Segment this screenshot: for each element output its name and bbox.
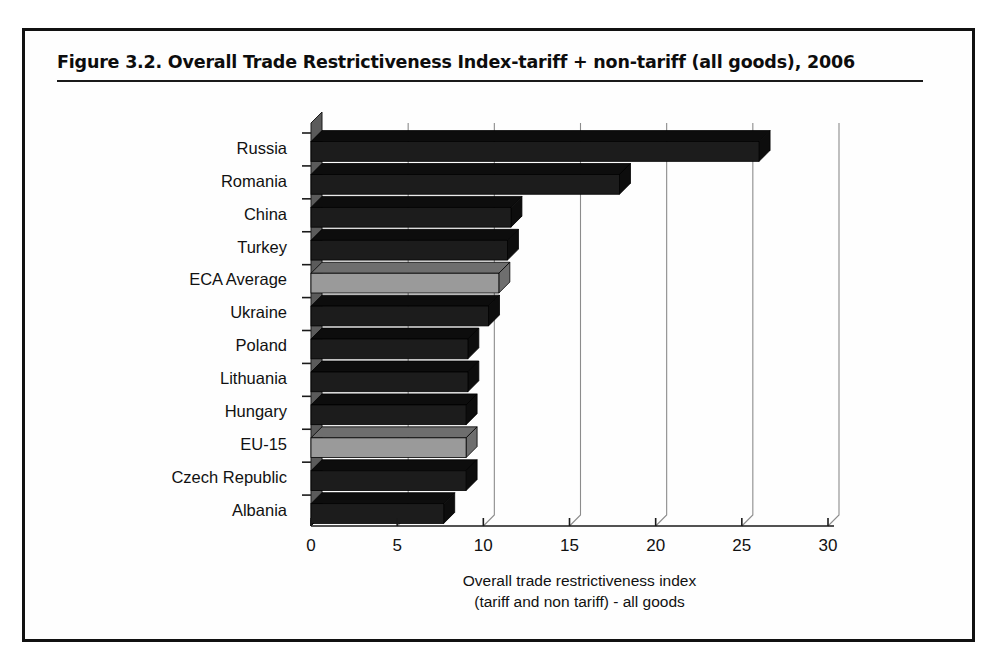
figure-frame: Figure 3.2. Overall Trade Restrictivenes… [22, 28, 975, 642]
bar-czech-republic [311, 460, 477, 491]
bar-russia [311, 131, 770, 162]
bar-hungary [311, 394, 477, 425]
gridline-25 [742, 123, 753, 526]
category-label: China [244, 205, 288, 223]
bar-lithuania [311, 361, 479, 392]
category-label: EU-15 [240, 435, 287, 453]
x-tick-label: 25 [732, 536, 751, 555]
bar-ukraine [311, 295, 500, 326]
x-tick-label: 5 [392, 536, 401, 555]
x-tick-labels-group: 051015202530 [306, 536, 837, 555]
category-label: Turkey [237, 238, 288, 256]
category-label: Poland [236, 336, 287, 354]
bar-turkey [311, 229, 518, 260]
bar-poland [311, 328, 479, 359]
category-label: ECA Average [189, 270, 287, 288]
bar-eu-15 [311, 427, 477, 458]
bars-group [311, 131, 770, 524]
bar-romania [311, 164, 630, 195]
category-label: Russia [237, 139, 288, 157]
bar-chart: AlbaniaCzech RepublicEU-15HungaryLithuan… [25, 31, 978, 645]
category-label: Lithuania [220, 369, 288, 387]
bar-china [311, 196, 522, 227]
x-axis-title: Overall trade restrictiveness index(tari… [463, 572, 697, 610]
category-label: Romania [221, 172, 288, 190]
category-label: Albania [232, 501, 288, 519]
gridline-30 [828, 123, 839, 526]
gridline-20 [656, 123, 667, 526]
category-labels-group: AlbaniaCzech RepublicEU-15HungaryLithuan… [171, 133, 311, 519]
category-label: Hungary [225, 402, 288, 420]
x-tick-label: 15 [560, 536, 579, 555]
x-axis-title-line-2: (tariff and non tariff) - all goods [474, 593, 685, 610]
category-label: Czech Republic [171, 468, 287, 486]
bar-eca-average [311, 262, 510, 293]
x-tick-label: 20 [646, 536, 665, 555]
x-tick-label: 10 [474, 536, 493, 555]
bar-albania [311, 493, 455, 524]
x-axis-title-line-1: Overall trade restrictiveness index [463, 572, 697, 589]
chart-canvas: AlbaniaCzech RepublicEU-15HungaryLithuan… [25, 31, 978, 645]
category-label: Ukraine [230, 303, 287, 321]
x-tick-label: 0 [306, 536, 315, 555]
x-tick-label: 30 [819, 536, 838, 555]
